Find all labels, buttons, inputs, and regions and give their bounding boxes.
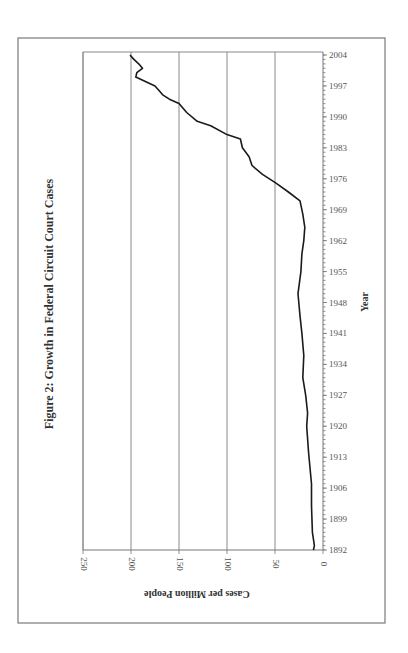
year-tick-label: 1969 (329, 205, 348, 215)
year-tick-label: 1941 (329, 328, 347, 338)
year-tick-label: 1934 (329, 359, 348, 369)
year-tick-label: 1920 (329, 421, 348, 431)
year-tick-label: 1990 (329, 112, 348, 122)
value-tick-label: 250 (79, 557, 89, 571)
x-axis-label: Year (359, 291, 370, 312)
value-tick-label: 50 (271, 560, 281, 570)
plot-area: 0501001502002501892189919061913192019271… (79, 50, 348, 571)
year-tick-label: 2004 (329, 50, 348, 60)
value-tick-label: 0 (319, 562, 329, 567)
year-tick-label: 1955 (329, 267, 348, 277)
plot-border (83, 52, 323, 550)
year-tick-label: 1906 (329, 483, 348, 493)
y-axis-label: Cases per Million People (144, 589, 250, 600)
year-tick-label: 1976 (329, 174, 348, 184)
value-tick-label: 150 (175, 557, 185, 571)
value-tick-label: 200 (127, 557, 137, 571)
year-tick-label: 1962 (329, 236, 347, 246)
data-line (130, 55, 314, 550)
year-tick-label: 1948 (329, 298, 348, 308)
year-tick-label: 1927 (329, 390, 348, 400)
chart-title: Figure 2: Growth in Federal Circuit Cour… (42, 179, 56, 430)
year-tick-label: 1892 (329, 545, 347, 555)
chart: 0501001502002501892189919061913192019271… (0, 0, 408, 653)
year-tick-label: 1983 (329, 143, 348, 153)
year-tick-label: 1913 (329, 452, 348, 462)
year-tick-label: 1899 (329, 514, 348, 524)
value-tick-label: 100 (223, 557, 233, 571)
year-tick-label: 1997 (329, 81, 348, 91)
